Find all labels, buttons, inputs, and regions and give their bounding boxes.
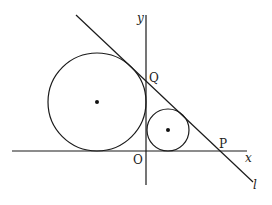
point-q-label: Q bbox=[149, 71, 159, 85]
geometry-diagram: y x O Q P l bbox=[0, 0, 272, 205]
y-axis-label: y bbox=[136, 11, 144, 25]
small-circle-center bbox=[166, 128, 170, 132]
line-l-label: l bbox=[253, 178, 257, 192]
x-axis-label: x bbox=[245, 151, 252, 165]
point-p-label: P bbox=[219, 137, 227, 151]
large-circle-center bbox=[95, 100, 99, 104]
tangent-line-l bbox=[76, 15, 253, 182]
origin-label: O bbox=[133, 153, 143, 167]
